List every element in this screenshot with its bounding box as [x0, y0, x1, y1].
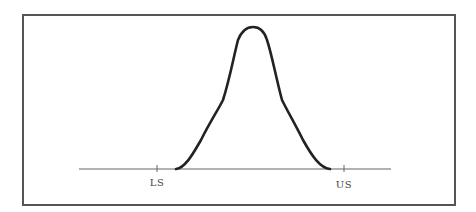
lower-spec-label: LS: [150, 177, 165, 188]
distribution-diagram: [0, 0, 476, 212]
bell-curve: [176, 27, 330, 169]
upper-spec-label: US: [336, 179, 352, 190]
